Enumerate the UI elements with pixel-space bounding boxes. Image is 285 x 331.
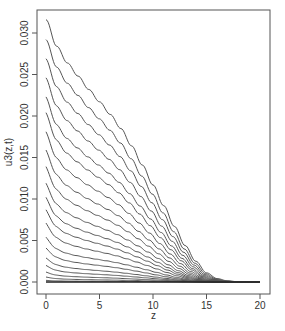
- series-line-t4: [46, 78, 260, 282]
- x-tick-label: 15: [201, 300, 213, 311]
- x-axis: 05101520: [43, 294, 266, 311]
- series-line-t9: [46, 167, 260, 282]
- series-line-t10: [46, 183, 260, 282]
- y-tick-label: 0.015: [19, 145, 30, 170]
- y-tick-label: 0.025: [19, 62, 30, 87]
- y-axis-title: u3(z,t): [3, 138, 14, 166]
- line-chart: 05101520 0.0000.0050.0100.0150.0200.0250…: [0, 0, 285, 331]
- x-tick-label: 5: [97, 300, 103, 311]
- y-axis: 0.0000.0050.0100.0150.0200.0250.030: [19, 20, 37, 294]
- y-tick-label: 0.020: [19, 103, 30, 128]
- series-lines: [46, 20, 260, 282]
- y-tick-label: 0.000: [19, 269, 30, 294]
- x-tick-label: 20: [254, 300, 266, 311]
- y-tick-label: 0.010: [19, 186, 30, 211]
- plot-box: [37, 10, 270, 294]
- series-line-t11: [46, 197, 260, 282]
- y-tick-label: 0.030: [19, 20, 30, 45]
- series-line-t3: [46, 59, 260, 282]
- x-axis-title: z: [151, 310, 156, 321]
- x-tick-label: 0: [43, 300, 49, 311]
- series-line-t6: [46, 113, 260, 282]
- y-tick-label: 0.005: [19, 228, 30, 253]
- series-line-t5: [46, 97, 260, 282]
